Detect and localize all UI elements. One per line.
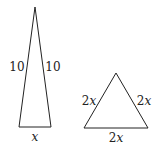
right-side-label: 10: [45, 60, 60, 74]
equilateral-triangle: 2x 2x 2x: [82, 73, 152, 145]
isosceles-triangle: 10 10 x: [9, 7, 60, 144]
base-label: x: [32, 130, 39, 144]
triangles-diagram: 10 10 x 2x 2x 2x: [0, 0, 152, 150]
base-label: 2x: [109, 131, 124, 145]
left-side-label: 10: [9, 60, 24, 74]
right-side-label: 2x: [137, 94, 152, 108]
left-side-label: 2x: [82, 94, 97, 108]
